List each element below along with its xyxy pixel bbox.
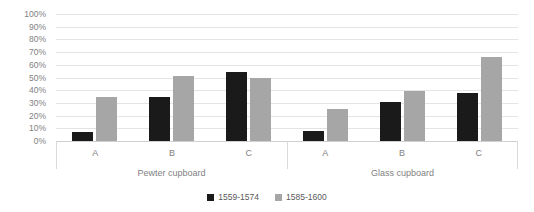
legend-label: 1559-1574 [218, 193, 259, 202]
bar-group [210, 14, 287, 141]
y-axis-tick-label: 30% [29, 99, 46, 108]
bar [226, 72, 247, 141]
bar [481, 57, 502, 141]
bar-group [56, 14, 133, 141]
bar [327, 109, 348, 141]
y-axis-tick-label: 100% [24, 10, 46, 19]
category-tick-label: A [287, 141, 364, 169]
bar-group [287, 14, 364, 141]
category-labels-pewter: ABC [57, 141, 287, 169]
bar-group [364, 14, 441, 141]
category-labels-glass: ABC [287, 141, 517, 169]
bar [250, 78, 271, 142]
category-tick-label: B [134, 141, 211, 169]
legend-item[interactable]: 1585-1600 [275, 193, 327, 202]
y-axis-tick-label: 10% [29, 124, 46, 133]
panel-title: Pewter cupboard [56, 169, 287, 185]
panel-titles: Pewter cupboardGlass cupboard [56, 169, 518, 185]
panel-glass [287, 14, 518, 141]
bar [96, 97, 117, 141]
category-axis: ABC ABC [56, 141, 518, 169]
bar [303, 131, 324, 141]
legend-label: 1585-1600 [286, 193, 327, 202]
y-axis-tick-label: 50% [29, 73, 46, 82]
chart-legend: 1559-15741585-1600 [0, 190, 534, 204]
bar [457, 93, 478, 141]
category-tick-label: B [364, 141, 441, 169]
plot-area [56, 14, 518, 141]
legend-swatch-icon [275, 194, 282, 201]
y-axis-tick-label: 80% [29, 35, 46, 44]
bar-group [133, 14, 210, 141]
bar [404, 91, 425, 141]
y-axis-tick-label: 60% [29, 61, 46, 70]
bar [72, 132, 93, 141]
category-tick-label: C [440, 141, 517, 169]
y-axis-tick-label: 40% [29, 86, 46, 95]
bar [149, 97, 170, 141]
panel-pewter [56, 14, 287, 141]
bar-group [441, 14, 518, 141]
panel-title: Glass cupboard [287, 169, 518, 185]
y-axis-tick-label: 90% [29, 22, 46, 31]
bar [173, 76, 194, 141]
bar [380, 102, 401, 141]
y-axis: 100%90%80%70%60%50%40%30%20%10%0% [0, 14, 50, 141]
y-axis-tick-label: 0% [34, 137, 46, 146]
legend-item[interactable]: 1559-1574 [207, 193, 259, 202]
legend-swatch-icon [207, 194, 214, 201]
bar-chart: 100%90%80%70%60%50%40%30%20%10%0% ABC AB… [0, 0, 534, 212]
category-tick-label: A [57, 141, 134, 169]
category-tick-label: C [210, 141, 287, 169]
y-axis-tick-label: 20% [29, 111, 46, 120]
y-axis-tick-label: 70% [29, 48, 46, 57]
bars-layer [56, 14, 518, 141]
